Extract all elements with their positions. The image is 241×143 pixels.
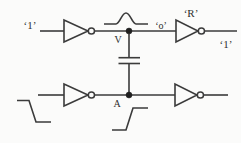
inverter-gate-icon <box>176 20 204 42</box>
capacitor-icon <box>119 34 141 94</box>
top-input-label: ‘1’ <box>24 19 37 31</box>
crosstalk-circuit-diagram: ‘1’ V ‘o’ ‘R’ ‘1’ <box>0 0 241 143</box>
inverter4-triangle <box>175 84 197 106</box>
inverter4-bubble <box>197 92 203 98</box>
inverter1-bubble <box>88 28 94 34</box>
rising-edge-icon <box>112 108 148 130</box>
inverter2-triangle <box>176 20 198 42</box>
victim-node-label: V <box>114 34 122 45</box>
falling-edge-icon <box>17 101 51 123</box>
circuit-figure: ‘1’ V ‘o’ ‘R’ ‘1’ <box>0 0 241 143</box>
inverter3-triangle <box>64 84 88 106</box>
bottom-node-label: A <box>113 98 121 109</box>
receiver-input-label: ‘o’ <box>155 20 167 31</box>
receiver-name-label: ‘R’ <box>184 7 199 19</box>
inverter-gate-icon <box>64 20 95 42</box>
inverter3-bubble <box>88 92 94 98</box>
inverter1-triangle <box>64 20 88 42</box>
glitch-pulse-icon <box>104 13 148 24</box>
top-output-label: ‘1’ <box>220 38 233 50</box>
inverter2-bubble <box>198 28 204 34</box>
junction-dot-v <box>126 28 132 34</box>
inverter-gate-icon <box>175 84 203 106</box>
junction-dot-a <box>126 92 132 98</box>
inverter-gate-icon <box>64 84 95 106</box>
